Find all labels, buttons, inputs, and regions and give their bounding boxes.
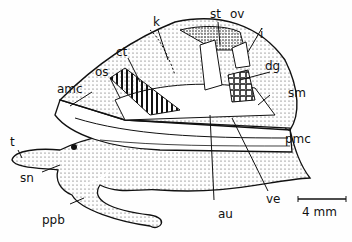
label-sm: sm: [288, 86, 306, 100]
label-dg: dg: [265, 59, 280, 73]
eye: [71, 144, 77, 150]
label-au: au: [218, 207, 233, 221]
label-ve: ve: [266, 192, 280, 206]
label-sn: sn: [20, 171, 34, 185]
label-ov: ov: [230, 7, 244, 21]
label-t: t: [10, 135, 15, 149]
anatomical-figure: st ov k i ct dg os amc sm pmc t sn ppb a…: [0, 0, 352, 242]
snail-drawing: st ov k i ct dg os amc sm pmc t sn ppb a…: [0, 0, 352, 242]
scale-bar-label: 4 mm: [302, 205, 337, 219]
label-amc: amc: [57, 82, 83, 96]
label-pmc: pmc: [285, 132, 311, 146]
label-os: os: [95, 65, 109, 79]
label-k: k: [153, 15, 160, 29]
label-ppb: ppb: [42, 213, 65, 227]
label-i: i: [260, 27, 263, 41]
label-ct: ct: [116, 45, 128, 59]
label-st: st: [210, 7, 221, 21]
